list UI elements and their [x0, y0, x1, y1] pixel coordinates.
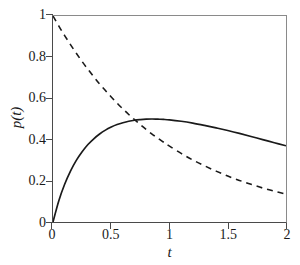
x-tick-label: 0.5 — [91, 228, 131, 242]
y-tick-label: 1 — [2, 8, 46, 22]
x-tick-label: 0 — [32, 228, 72, 242]
dashed-curve-path — [53, 16, 286, 194]
y-tick-label-wrap: 0.8 — [0, 50, 46, 64]
curves-svg — [53, 16, 286, 222]
x-tick-label: 1.5 — [208, 228, 248, 242]
y-axis-label: p(t) — [9, 78, 24, 158]
plot-area — [52, 15, 287, 223]
y-tick-label: 0.2 — [2, 174, 46, 188]
y-tick-label: 0.8 — [2, 50, 46, 64]
y-tick-label-wrap: 1 — [0, 8, 46, 22]
x-axis-label: t — [52, 245, 287, 260]
chart-figure: 0 0.2 0.4 0.6 0.8 1 0 0.5 1 1.5 2 t p(t) — [0, 0, 300, 265]
x-tick-label: 2 — [267, 228, 300, 242]
x-tick-label: 1 — [150, 228, 190, 242]
solid-curve-path — [53, 119, 286, 222]
y-tick-label-wrap: 0.2 — [0, 174, 46, 188]
